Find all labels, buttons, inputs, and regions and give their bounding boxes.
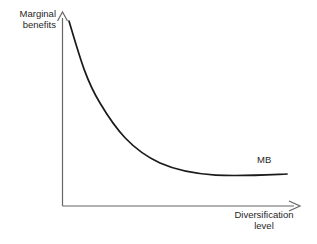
x-axis-label-line-1: Diversification [214,210,314,221]
curve-label-mb: MB [257,154,271,165]
chart-canvas [0,0,317,244]
y-axis-label-line-1: Marginal [0,9,56,20]
x-axis-label: Diversification level [214,210,314,231]
y-axis-label: Marginal benefits [0,9,56,30]
x-axis-label-line-2: level [214,221,314,232]
marginal-benefits-diagram: Marginal benefits Diversification level … [0,0,317,244]
marginal-benefits-curve [69,21,287,176]
y-axis-label-line-2: benefits [0,20,56,31]
